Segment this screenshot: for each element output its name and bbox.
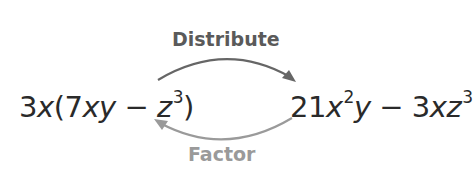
exponent: 3 — [462, 87, 472, 107]
distribute-arrow-icon — [158, 59, 296, 82]
factor-arrow-icon — [154, 118, 292, 139]
